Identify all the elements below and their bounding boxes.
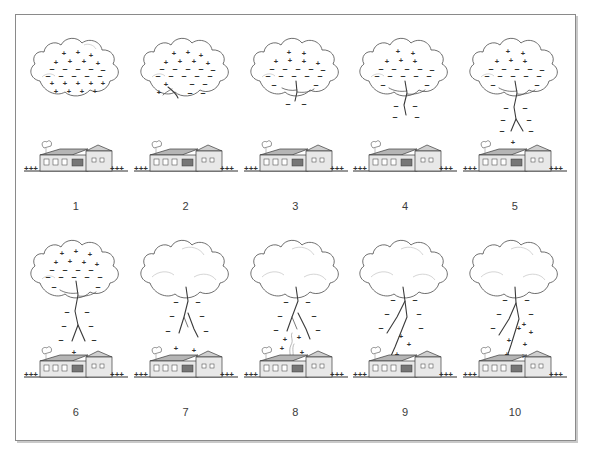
panel-label-2: 2	[132, 200, 240, 212]
figure-canvas: + + + + + + + – – – –	[0, 0, 593, 461]
svg-text:+: +	[54, 258, 59, 267]
channel-positive-10b: +	[529, 328, 534, 337]
return-stroke-channel-9: – – – – – –	[379, 287, 424, 365]
ground-scene-8: +++ +++	[244, 347, 348, 379]
svg-text:+: +	[399, 56, 404, 65]
house-2	[150, 141, 222, 171]
ground-charge-right-1: +++	[110, 164, 124, 173]
svg-text:–: –	[58, 335, 63, 345]
svg-text:–: –	[95, 282, 100, 292]
svg-text:+: +	[93, 87, 98, 96]
svg-text:–: –	[200, 88, 205, 98]
svg-text:–: –	[61, 321, 66, 331]
svg-text:–: –	[311, 311, 316, 321]
svg-text:+: +	[68, 257, 73, 266]
svg-text:+: +	[82, 258, 87, 267]
svg-text:–: –	[155, 71, 160, 81]
panel-1: + + + + + + + – – – –	[22, 19, 130, 219]
svg-text:–: –	[510, 71, 515, 81]
svg-text:–: –	[500, 115, 505, 125]
svg-text:–: –	[194, 71, 199, 81]
svg-text:–: –	[393, 112, 398, 122]
svg-text:–: –	[526, 115, 531, 125]
ground-scene-3: +++ +++	[244, 141, 348, 173]
channel-positive-9a: +	[399, 332, 404, 341]
ground-charge-right-7: +++	[220, 370, 234, 379]
svg-text:+: +	[172, 49, 177, 58]
svg-text:+: +	[95, 260, 100, 269]
svg-text:–: –	[187, 88, 192, 98]
house-positive-charge-7a: +	[174, 344, 179, 353]
svg-text:+: +	[396, 47, 401, 56]
svg-text:–: –	[484, 71, 489, 81]
svg-text:–: –	[528, 126, 533, 136]
panel-row-bottom: + + + + + + + – – – –	[16, 225, 575, 430]
ground-charge-left-2: +++	[134, 164, 148, 173]
svg-text:+: +	[62, 49, 67, 58]
svg-text:+: +	[54, 87, 59, 96]
svg-text:+: +	[74, 247, 79, 256]
ground-charge-right-10: +++	[549, 370, 563, 379]
panel-grid: + + + + + + + – – – –	[16, 15, 575, 440]
channel-positive-9b: +	[407, 340, 412, 349]
svg-text:–: –	[524, 295, 529, 305]
ground-charge-right-3: +++	[330, 164, 344, 173]
svg-text:+: +	[186, 48, 191, 57]
svg-text:+: +	[88, 250, 93, 259]
svg-text:–: –	[425, 80, 430, 90]
return-stroke-channel-10: – – – – –	[490, 287, 533, 363]
svg-text:–: –	[391, 295, 396, 305]
svg-text:–: –	[522, 103, 527, 113]
svg-text:–: –	[173, 297, 178, 307]
ground-scene-2: +++ +++	[134, 141, 238, 173]
svg-text:+: +	[385, 57, 390, 66]
panel-label-4: 4	[351, 200, 459, 212]
figure-plate: + + + + + + + – – – –	[15, 14, 576, 441]
svg-text:+: +	[82, 57, 87, 66]
panel-4: + + + + + – – – – – –	[351, 19, 459, 219]
svg-text:+: +	[54, 58, 59, 67]
svg-text:–: –	[271, 80, 276, 90]
channel-positive-10e: +	[507, 336, 512, 345]
svg-text:–: –	[417, 309, 422, 319]
house-9	[369, 347, 441, 377]
svg-text:–: –	[490, 80, 495, 90]
cloud-7	[141, 240, 228, 298]
svg-text:–: –	[84, 272, 89, 282]
panel-label-6: 6	[22, 406, 130, 418]
ground-charge-right-5: +++	[549, 164, 563, 173]
svg-text:–: –	[203, 326, 208, 336]
svg-text:–: –	[379, 323, 384, 333]
ground-scene-7: + +	[134, 344, 238, 379]
svg-text:+: +	[506, 47, 511, 56]
svg-text:+: +	[89, 51, 94, 60]
svg-text:+: +	[509, 56, 514, 65]
house-10	[479, 347, 551, 377]
svg-text:+: +	[273, 57, 278, 66]
panel-row-top: + + + + + + + – – – –	[16, 19, 575, 219]
streamer-charge-8b: +	[296, 333, 301, 342]
svg-text:–: –	[277, 311, 282, 321]
panel-9: – – – – – – + + +	[351, 225, 459, 430]
house-8	[260, 347, 332, 377]
panel-label-7: 7	[132, 406, 240, 418]
svg-text:–: –	[528, 309, 533, 319]
svg-text:–: –	[503, 103, 508, 113]
ground-charge-left-10: +++	[463, 370, 477, 379]
svg-text:–: –	[534, 80, 539, 90]
svg-text:–: –	[490, 323, 495, 333]
svg-text:–: –	[88, 321, 93, 331]
panel-5: + + + + + – – – – – –	[461, 19, 569, 219]
svg-text:+: +	[192, 57, 197, 66]
svg-text:–: –	[497, 71, 502, 81]
ground-charge-left-4: +++	[353, 164, 367, 173]
ground-charge-left-6: +++	[24, 370, 38, 379]
svg-text:–: –	[502, 295, 507, 305]
ground-charge-right-6: +++	[110, 370, 124, 379]
svg-text:–: –	[273, 325, 278, 335]
svg-text:–: –	[388, 71, 393, 81]
svg-text:–: –	[499, 126, 504, 136]
channel-positive-10d: +	[523, 340, 528, 349]
svg-text:–: –	[181, 71, 186, 81]
svg-text:–: –	[375, 71, 380, 81]
